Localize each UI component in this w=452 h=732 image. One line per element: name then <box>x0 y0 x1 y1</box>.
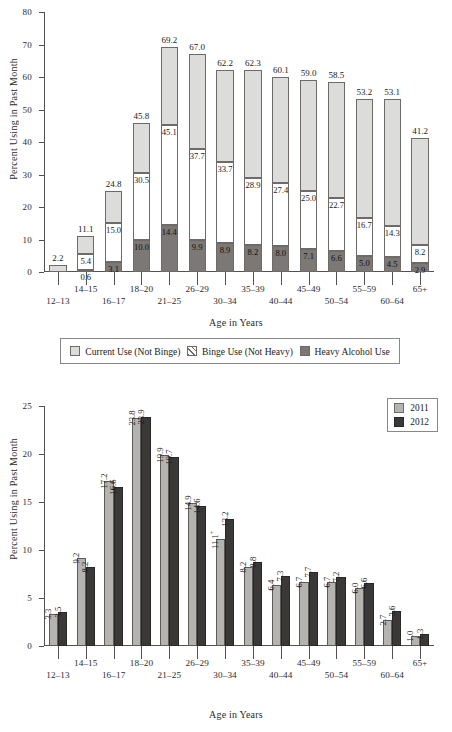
segment-current-use[interactable] <box>216 70 233 163</box>
stacked-bar[interactable]: 14.34.553.1 <box>384 99 401 272</box>
y-axis-tick: 70 <box>39 45 44 46</box>
segment-current-use[interactable] <box>272 77 289 183</box>
bar-2012[interactable]: 6.6 <box>364 583 373 646</box>
segment-binge-use[interactable]: 30.5 <box>133 173 150 240</box>
stacked-bar[interactable]: 16.75.053.2 <box>356 99 373 272</box>
x-axis-tick-label: 55–59 <box>353 284 376 294</box>
stacked-bar[interactable]: 45.114.469.2 <box>161 47 178 272</box>
segment-current-use[interactable] <box>356 99 373 218</box>
bar-2011[interactable]: 6.7 <box>327 582 336 646</box>
x-axis-category: 50–54 <box>323 271 351 272</box>
bar-2012[interactable]: 3.6 <box>392 611 401 646</box>
bar-2012[interactable]: 7.2 <box>336 577 345 646</box>
segment-value-label: 5.4 <box>80 256 91 266</box>
x-axis-tick-label: 60–64 <box>380 670 403 680</box>
segment-binge-use[interactable]: 33.7 <box>216 162 233 243</box>
segment-heavy-use[interactable]: 10.0 <box>133 240 150 273</box>
bar-2011[interactable]: 8.2 <box>244 567 253 646</box>
bar-2012[interactable]: 3.5 <box>58 612 67 646</box>
x-axis-tick-label: 65+ <box>413 658 428 668</box>
segment-current-use[interactable] <box>189 54 206 149</box>
segment-heavy-use[interactable]: 8.2 <box>244 245 261 272</box>
bar-2011[interactable]: 19.9 <box>160 455 169 646</box>
segment-current-use[interactable] <box>105 191 122 223</box>
bar-2012[interactable]: 7.3 <box>281 576 290 646</box>
segment-heavy-use[interactable]: 14.4 <box>161 225 178 272</box>
x-axis-category: 60–64 <box>378 645 406 646</box>
segment-heavy-use[interactable]: 6.6 <box>328 251 345 272</box>
bar-2012[interactable]: 7.7 <box>309 572 318 646</box>
stacked-bar[interactable]: 22.76.658.5 <box>328 82 345 272</box>
bar-2012[interactable]: 8.2 <box>86 567 95 646</box>
segment-current-use[interactable] <box>244 70 261 179</box>
bar-2012[interactable]: 23.9 <box>141 417 150 646</box>
bar-value-label: 6.6 <box>359 577 369 588</box>
segment-heavy-use[interactable]: 8.0 <box>272 246 289 272</box>
bar-2011[interactable]: 6.4 <box>272 585 281 646</box>
segment-current-use[interactable] <box>411 138 428 245</box>
bar-2011[interactable]: 17.2 <box>104 481 113 646</box>
bar-2011[interactable]: 14.9 <box>188 503 197 646</box>
segment-current-use[interactable] <box>161 47 178 125</box>
y-axis-tick-label: 0 <box>27 267 32 277</box>
stacked-bar[interactable]: 15.03.124.8 <box>105 191 122 272</box>
stacked-bar[interactable]: 30.510.045.8 <box>133 123 150 272</box>
segment-current-use[interactable] <box>300 80 317 191</box>
segment-binge-use[interactable]: 14.3 <box>384 226 401 258</box>
x-axis-tick <box>58 646 59 659</box>
stacked-bar[interactable]: 33.78.962.2 <box>216 70 233 272</box>
segment-binge-use[interactable]: 5.4 <box>77 254 94 270</box>
segment-current-use[interactable] <box>384 99 401 225</box>
legend-item-y2012[interactable]: 2012 <box>394 417 429 427</box>
y-axis-tick-label: 20 <box>23 202 32 212</box>
bar-2012[interactable]: 19.7 <box>169 457 178 646</box>
bar-2012[interactable]: 16.6 <box>114 487 123 646</box>
stacked-bar[interactable]: 28.98.262.3 <box>244 70 261 272</box>
segment-heavy-use[interactable]: 4.5 <box>384 257 401 272</box>
segment-binge-use[interactable]: 8.2 <box>411 245 428 262</box>
legend-item-heavy[interactable]: Heavy Alcohol Use <box>300 346 390 357</box>
bar-2011[interactable]: 6.7 <box>299 582 308 646</box>
bar-2011[interactable]: 11.1+ <box>216 539 225 646</box>
stacked-bar[interactable]: 37.79.967.0 <box>189 54 206 272</box>
segment-binge-use[interactable]: 27.4 <box>272 183 289 246</box>
segment-current-use[interactable] <box>133 123 150 173</box>
segment-binge-use[interactable]: 37.7 <box>189 149 206 239</box>
x-axis-tick-label: 55–59 <box>353 658 376 668</box>
legend-swatch-binge-icon <box>187 346 197 356</box>
bar-2011[interactable]: 23.8 <box>132 418 141 646</box>
bar-2011[interactable]: 6.0 <box>355 588 364 646</box>
segment-heavy-use[interactable]: 5.0 <box>356 256 373 272</box>
legend-item-binge[interactable]: Binge Use (Not Heavy) <box>187 346 293 357</box>
segment-binge-use[interactable]: 16.7 <box>356 218 373 256</box>
bottom-chart-plot-area: 0510152025 3.33.59.28.217.216.623.823.91… <box>44 406 434 646</box>
top-chart-legend: Current Use (Not Binge)Binge Use (Not He… <box>60 338 400 364</box>
segment-current-use[interactable] <box>328 82 345 198</box>
segment-binge-use[interactable]: 45.1 <box>161 125 178 225</box>
stacked-bar[interactable]: 8.22.941.2 <box>411 138 428 272</box>
stacked-bar[interactable]: 25.07.159.0 <box>300 80 317 272</box>
segment-binge-use[interactable]: 25.0 <box>300 191 317 249</box>
x-axis-category: 26–29 <box>183 645 211 646</box>
stacked-bar[interactable]: 27.48.060.1 <box>272 77 289 272</box>
segment-binge-use[interactable]: 15.0 <box>105 223 122 262</box>
bar-2012[interactable]: 13.2 <box>225 519 234 646</box>
x-axis-tick <box>281 646 282 659</box>
legend-item-y2011[interactable]: 2011 <box>394 403 429 413</box>
bar-value-label: 3.6 <box>387 606 397 617</box>
bar-2012[interactable]: 8.8 <box>253 562 262 646</box>
segment-current-use[interactable] <box>77 236 94 255</box>
x-axis-category: 16–17 <box>100 271 128 272</box>
segment-heavy-use[interactable]: 7.1 <box>300 249 317 272</box>
stacked-bar[interactable]: 5.40.611.1 <box>77 236 94 272</box>
bar-2011[interactable]: 3.3 <box>49 614 58 646</box>
bar-2011[interactable]: 2.7 <box>383 620 392 646</box>
segment-heavy-use[interactable]: 9.9 <box>189 240 206 272</box>
legend-item-current[interactable]: Current Use (Not Binge) <box>70 346 180 357</box>
bar-2012[interactable]: 14.6 <box>197 506 206 646</box>
x-axis-category: 30–34 <box>211 271 239 272</box>
segment-binge-use[interactable]: 22.7 <box>328 198 345 250</box>
segment-heavy-use[interactable]: 8.9 <box>216 243 233 272</box>
x-axis-tick-label: 40–44 <box>269 296 292 306</box>
segment-binge-use[interactable]: 28.9 <box>244 178 261 245</box>
